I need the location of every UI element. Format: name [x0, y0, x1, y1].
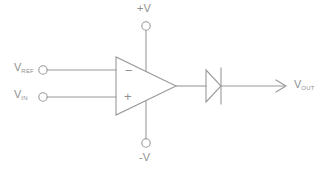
schematic-svg — [0, 0, 324, 173]
label-v-ref-sub: REF — [21, 68, 34, 74]
terminal-v-in-circle[interactable] — [39, 93, 47, 101]
terminal-v-ref-circle[interactable] — [39, 66, 47, 74]
terminal-v-plus-circle[interactable] — [142, 22, 150, 30]
opamp-noninverting-input-sign: + — [124, 90, 132, 103]
label-v-supply-negative: -V — [139, 152, 150, 163]
circuit-diagram-canvas: VREF VIN +V -V VOUT − + — [0, 0, 324, 173]
label-v-out-sub: OUT — [301, 85, 314, 91]
label-v-out: VOUT — [294, 79, 315, 92]
diode-triangle[interactable] — [206, 70, 221, 102]
opamp-inverting-input-sign: − — [125, 64, 133, 77]
label-v-in: VIN — [14, 89, 28, 102]
terminal-v-minus-circle[interactable] — [142, 139, 150, 147]
label-v-ref: VREF — [14, 62, 34, 75]
label-v-in-sub: IN — [21, 95, 27, 101]
label-v-supply-positive: +V — [137, 3, 151, 14]
